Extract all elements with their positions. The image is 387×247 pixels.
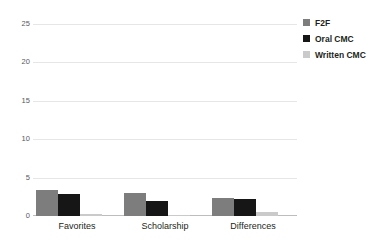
legend-label: F2F [315, 18, 330, 28]
plot-area [33, 24, 297, 216]
y-tick-label: 0 [4, 212, 30, 220]
bar [234, 199, 256, 216]
y-tick-label: 5 [4, 174, 30, 182]
bar-groups [33, 24, 297, 216]
bar [212, 198, 234, 216]
bar [124, 193, 146, 216]
bar [80, 214, 102, 216]
x-tick-label: Scholarship [121, 220, 209, 232]
bar [256, 212, 278, 216]
legend-item: F2F [303, 15, 387, 30]
bar-chart: 0510152025 FavoritesScholarshipDifferenc… [0, 0, 387, 247]
legend-label: Written CMC [315, 50, 366, 60]
bar [58, 194, 80, 216]
y-tick-label: 10 [4, 135, 30, 143]
bar [146, 201, 168, 216]
bar-group [36, 24, 102, 216]
x-tick-label: Differences [209, 220, 297, 232]
legend-swatch-icon [303, 35, 310, 42]
bar-group [124, 24, 190, 216]
bar [168, 215, 190, 217]
x-axis: FavoritesScholarshipDifferences [33, 220, 297, 236]
bar-group [212, 24, 278, 216]
y-tick-label: 20 [4, 58, 30, 66]
x-tick-label: Favorites [33, 220, 121, 232]
legend-item: Written CMC [303, 47, 387, 62]
y-axis: 0510152025 [0, 24, 30, 216]
chart-legend: F2FOral CMCWritten CMC [303, 15, 387, 63]
legend-item: Oral CMC [303, 31, 387, 46]
legend-swatch-icon [303, 19, 310, 26]
legend-label: Oral CMC [315, 34, 354, 44]
y-tick-label: 25 [4, 20, 30, 28]
legend-swatch-icon [303, 51, 310, 58]
bar [36, 190, 58, 216]
y-tick-label: 15 [4, 97, 30, 105]
